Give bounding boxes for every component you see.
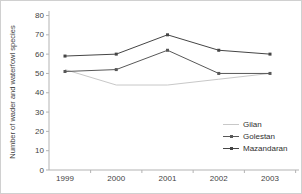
legend-line-sample-icon xyxy=(223,132,239,141)
data-point-marker xyxy=(115,68,118,71)
legend-item-golestan: Golestan xyxy=(223,132,287,141)
y-axis-title: Number of wader and waterfowl species xyxy=(8,7,18,177)
y-tick-label: 10 xyxy=(35,146,44,155)
x-tick-label: 2003 xyxy=(261,174,279,183)
legend-line-sample-icon xyxy=(223,120,239,129)
y-tick-label: 40 xyxy=(35,88,44,97)
series-line-mazandaran xyxy=(65,35,270,56)
x-tick-label: 2001 xyxy=(159,174,177,183)
y-tick-label: 60 xyxy=(35,50,44,59)
y-tick-label: 20 xyxy=(35,127,44,136)
x-tick-label: 2002 xyxy=(210,174,228,183)
data-point-marker xyxy=(64,55,67,58)
data-point-marker xyxy=(166,49,169,52)
data-point-marker xyxy=(115,53,118,56)
legend-label: Mazandaran xyxy=(243,144,287,153)
y-tick-label: 0 xyxy=(40,166,45,175)
legend-item-mazandaran: Mazandaran xyxy=(223,144,287,153)
data-point-marker xyxy=(217,49,220,52)
legend-label: Golestan xyxy=(243,132,275,141)
line-chart: 0102030405060708019992000200120022003 xyxy=(1,1,302,194)
y-tick-label: 70 xyxy=(35,30,44,39)
series-line-gilan xyxy=(65,70,270,85)
data-point-marker xyxy=(64,70,67,73)
x-tick-label: 1999 xyxy=(56,174,74,183)
data-point-marker xyxy=(269,72,272,75)
chart-legend: Gilan Golestan Mazandaran xyxy=(223,120,287,153)
x-tick-label: 2000 xyxy=(107,174,125,183)
y-tick-label: 80 xyxy=(35,11,44,20)
chart-window: 0102030405060708019992000200120022003 Nu… xyxy=(0,0,302,194)
legend-item-gilan: Gilan xyxy=(223,120,287,129)
data-point-marker xyxy=(217,72,220,75)
data-point-marker xyxy=(166,33,169,36)
y-tick-label: 30 xyxy=(35,108,44,117)
y-tick-label: 50 xyxy=(35,69,44,78)
legend-line-sample-icon xyxy=(223,144,239,153)
series-line-golestan xyxy=(65,50,270,73)
data-point-marker xyxy=(269,53,272,56)
legend-label: Gilan xyxy=(243,120,262,129)
